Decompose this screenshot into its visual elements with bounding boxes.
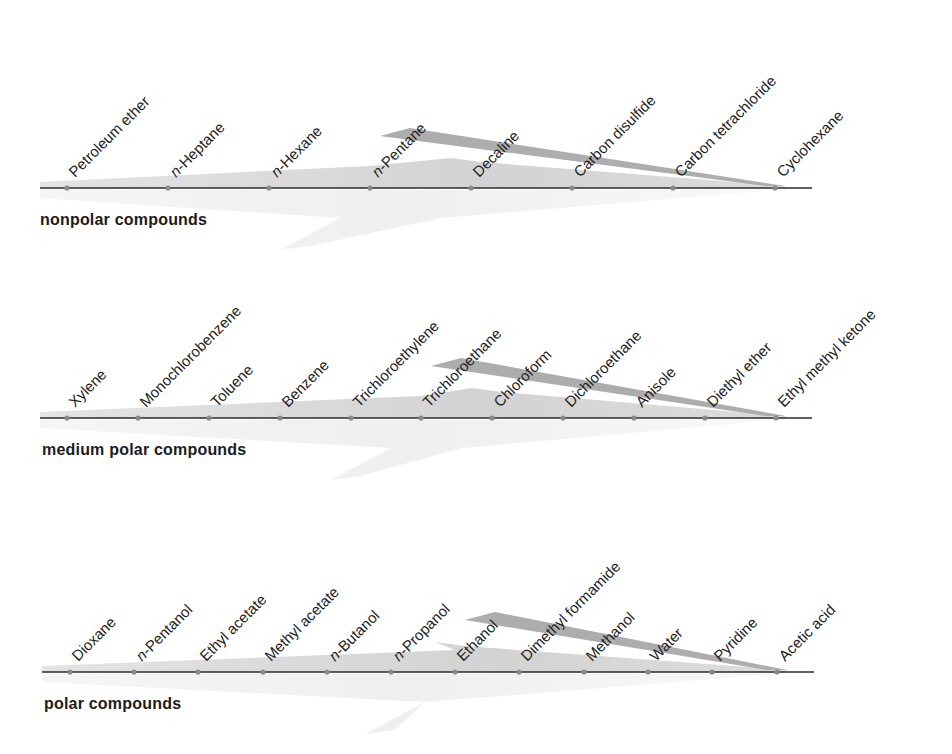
compound-marker (489, 415, 494, 420)
compound-label: Dioxane (68, 613, 119, 664)
compound-marker (569, 185, 574, 190)
compound-marker (452, 669, 457, 674)
compound-marker (266, 185, 271, 190)
compound-marker (581, 669, 586, 674)
compound-marker (64, 185, 69, 190)
compound-label: Ethyl acetate (196, 591, 269, 664)
compound-label: Anisole (632, 363, 679, 410)
compound-label: Pyridine (710, 614, 760, 664)
compound-marker (631, 415, 636, 420)
compound-marker (773, 415, 778, 420)
compound-marker (195, 669, 200, 674)
compound-label: Cyclohexane (773, 107, 846, 180)
section-label-medium-polar: medium polar compounds (42, 441, 246, 459)
compound-marker (702, 415, 707, 420)
compound-marker (277, 415, 282, 420)
compound-label: Toluene (207, 361, 256, 410)
compound-label: Petroleum ether (65, 93, 152, 180)
compound-marker (131, 669, 136, 674)
compound-label: Carbon tetrachloride (671, 72, 779, 180)
section-label-nonpolar: nonpolar compounds (40, 211, 207, 229)
compound-marker (64, 415, 69, 420)
compound-label: n-Pentanol (132, 601, 195, 664)
compound-marker (260, 669, 265, 674)
compound-marker (348, 415, 353, 420)
compound-marker (560, 415, 565, 420)
compound-marker (324, 669, 329, 674)
section-label-polar: polar compounds (44, 695, 181, 713)
compound-marker (670, 185, 675, 190)
compound-label: Diethyl ether (703, 339, 775, 411)
compound-marker (418, 415, 423, 420)
compound-marker (388, 669, 393, 674)
compound-marker (516, 669, 521, 674)
compound-marker (367, 185, 372, 190)
compound-label: Acetic acid (775, 601, 838, 664)
compound-marker (774, 669, 779, 674)
compound-marker (165, 185, 170, 190)
compound-marker (772, 185, 777, 190)
compound-label: Xylene (65, 366, 109, 410)
compound-marker (709, 669, 714, 674)
compound-marker (67, 669, 72, 674)
compound-marker (468, 185, 473, 190)
eluotropic-series-diagram: Petroleum ethern-Heptanen-Hexanen-Pentan… (0, 0, 952, 754)
compound-marker (135, 415, 140, 420)
compound-label: Ethyl methyl ketone (774, 306, 879, 411)
compound-marker (645, 669, 650, 674)
compound-label: n-Heptane (166, 119, 228, 181)
compound-marker (206, 415, 211, 420)
